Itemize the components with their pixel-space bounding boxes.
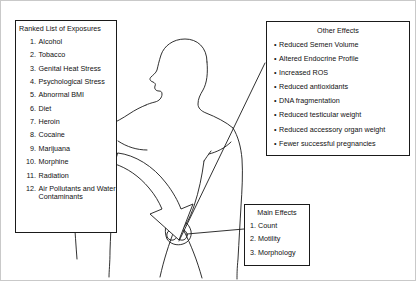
item-number: 5. [23, 91, 36, 99]
item-label: Heroin [39, 118, 117, 126]
list-item: 1. Count [250, 222, 309, 230]
chest-line-right [209, 142, 231, 154]
list-item: •Reduced antioxidants [274, 83, 409, 91]
list-item: 1.Alcohol [16, 38, 116, 46]
list-item: 9.Marijuana [16, 145, 116, 153]
item-label: DNA fragmentation [279, 96, 340, 105]
item-label: Marijuana [39, 145, 117, 153]
item-label: Psychological Stress [39, 78, 117, 86]
diagram-canvas: Ranked List of Exposures 1.Alcohol 2.Tob… [0, 0, 416, 281]
chest-line-left [118, 141, 147, 150]
ranked-list-title: Ranked List of Exposures [16, 25, 116, 33]
list-item: 5.Abnormal BMI [16, 91, 116, 99]
bullet-icon: • [274, 96, 277, 105]
item-number: 6. [23, 105, 36, 113]
item-label: Abnormal BMI [39, 91, 117, 99]
bullet-icon: • [274, 54, 277, 63]
item-label: Reduced Semen Volume [279, 40, 359, 49]
item-label: Reduced accessory organ weight [279, 125, 385, 134]
bullet-icon: • [274, 68, 277, 77]
item-number: 11. [23, 172, 36, 180]
item-label: Altered Endocrine Profile [279, 54, 359, 63]
list-item: 3.Genital Heat Stress [16, 65, 116, 73]
ranked-list-box: Ranked List of Exposures 1.Alcohol 2.Tob… [15, 20, 117, 233]
connector-to-main-effects [187, 229, 244, 234]
list-item: •Reduced testicular weight [274, 111, 409, 119]
list-item: •Reduced accessory organ weight [274, 126, 409, 134]
list-item: •Fewer successful pregnancies [274, 140, 409, 148]
list-item: 11.Radiation [16, 172, 116, 180]
list-item: •Increased ROS [274, 69, 409, 77]
leg-left-inner [160, 231, 174, 277]
list-item: •Reduced Semen Volume [274, 41, 409, 49]
neck-and-shoulder-right [198, 62, 233, 128]
bullet-icon: • [274, 139, 277, 148]
torso-right-side [233, 128, 242, 279]
bullet-icon: • [274, 110, 277, 119]
list-item: 2.Tobacco [16, 51, 116, 59]
item-label: Genital Heat Stress [39, 65, 117, 73]
list-item: 4.Psychological Stress [16, 78, 116, 86]
bullet-icon: • [274, 125, 277, 134]
item-label: Fewer successful pregnancies [279, 139, 376, 148]
list-item: 12.Air Pollutants and Water Contaminants [16, 185, 116, 201]
item-number: 4. [23, 78, 36, 86]
item-number: 2. [23, 51, 36, 59]
item-label: Increased ROS [279, 68, 328, 77]
head-outline [146, 39, 207, 105]
list-item: 3. Morphology [250, 249, 309, 257]
list-item: 7.Heroin [16, 118, 116, 126]
exposure-arrow [115, 153, 193, 240]
bullet-icon: • [274, 82, 277, 91]
item-label: Reduced antioxidants [279, 82, 348, 91]
list-item: 10.Morphine [16, 158, 116, 166]
list-item: 2. Motility [250, 235, 309, 243]
list-item: •DNA fragmentation [274, 97, 409, 105]
item-number: 7. [23, 118, 36, 126]
main-effects-box: Main Effects 1. Count 2. Motility 3. Mor… [244, 204, 310, 266]
other-effects-title: Other Effects [267, 27, 409, 35]
other-effects-items: •Reduced Semen Volume •Altered Endocrine… [267, 41, 409, 148]
item-number: 10. [23, 158, 36, 166]
item-label: Radiation [39, 172, 117, 180]
list-item: 8.Cocaine [16, 131, 116, 139]
item-label: Alcohol [39, 38, 117, 46]
item-number: 1. [23, 38, 36, 46]
item-label: Reduced testicular weight [279, 110, 361, 119]
ranked-list-items: 1.Alcohol 2.Tobacco 3.Genital Heat Stres… [16, 38, 116, 201]
item-label: Cocaine [39, 131, 117, 139]
item-label: Diet [39, 105, 117, 113]
item-label: Morphine [39, 158, 117, 166]
abdomen-midline-upper [204, 151, 211, 161]
main-effects-items: 1. Count 2. Motility 3. Morphology [245, 222, 309, 257]
other-effects-box: Other Effects •Reduced Semen Volume •Alt… [266, 21, 410, 156]
item-number: 8. [23, 131, 36, 139]
item-label: Tobacco [39, 51, 117, 59]
item-number: 3. [23, 65, 36, 73]
item-label: Air Pollutants and Water Contaminants [39, 185, 117, 201]
main-effects-title: Main Effects [245, 209, 309, 217]
item-number: 12. [23, 185, 36, 201]
item-number: 9. [23, 145, 36, 153]
bullet-icon: • [274, 40, 277, 49]
list-item: •Altered Endocrine Profile [274, 55, 409, 63]
list-item: 6.Diet [16, 105, 116, 113]
